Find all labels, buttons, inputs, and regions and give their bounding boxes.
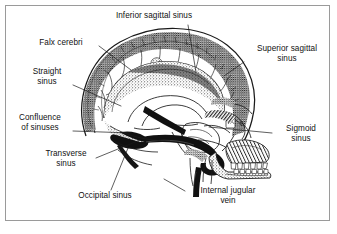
falx-cerebri <box>104 62 224 118</box>
label-transverse-sinus: Transverse sinus <box>36 149 96 168</box>
straight-sinus <box>143 106 186 135</box>
anatomical-figure: Inferior sagittal sinus Falx cerebri Sup… <box>0 0 337 234</box>
label-superior-sagittal-sinus: Superior sagittal sinus <box>246 44 328 63</box>
maxilla <box>226 140 269 164</box>
label-occipital-sinus: Occipital sinus <box>65 191 145 201</box>
label-straight-sinus: Straight sinus <box>21 67 73 86</box>
leader-internal-jugular-vein <box>164 179 185 191</box>
leader-occipital-sinus <box>111 148 128 190</box>
label-inferior-sagittal-sinus: Inferior sagittal sinus <box>108 11 200 21</box>
label-confluence-of-sinuses: Confluence of sinuses <box>7 113 73 132</box>
label-sigmoid-sinus: Sigmoid sinus <box>274 124 328 143</box>
label-internal-jugular-vein: Internal jugular vein <box>186 186 270 205</box>
label-falx-cerebri: Falx cerebri <box>26 38 96 48</box>
